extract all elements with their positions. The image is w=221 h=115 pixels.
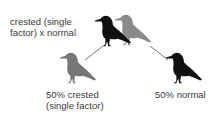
parents-label: crested (single factor) x normal: [10, 16, 76, 38]
line-to-crested: [85, 46, 103, 60]
crested-offspring-bird-icon: [60, 53, 96, 83]
crested-parent-bird-icon: [115, 15, 151, 45]
line-to-normal: [150, 46, 168, 60]
normal-offspring-label: 50% normal: [155, 89, 206, 100]
normal-offspring-bird-icon: [166, 53, 202, 83]
crested-offspring-label: 50% crested (single factor): [46, 89, 104, 111]
